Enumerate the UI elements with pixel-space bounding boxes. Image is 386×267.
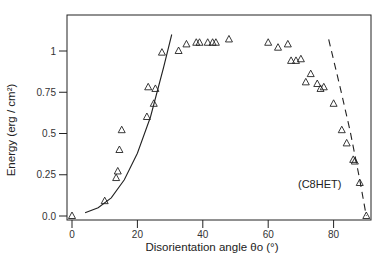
energy-chart: 0.00.250.50.751 020406080 (C8HET) Disori… xyxy=(0,0,386,267)
triangle-marker xyxy=(143,113,150,120)
triangle-marker xyxy=(118,126,125,133)
y-tick-label: 0.0 xyxy=(42,211,56,222)
triangle-marker xyxy=(225,35,232,42)
triangle-marker xyxy=(330,100,337,107)
x-axis-label: Disorientation angle θo (°) xyxy=(145,241,278,253)
y-axis-ticks: 0.00.250.50.751 xyxy=(37,46,67,222)
x-tick-label: 0 xyxy=(69,229,75,240)
y-tick-label: 1 xyxy=(50,46,56,57)
triangle-marker xyxy=(363,212,370,219)
triangle-marker xyxy=(175,47,182,54)
data-points xyxy=(69,35,370,218)
x-tick-label: 60 xyxy=(263,229,275,240)
x-axis-ticks: 020406080 xyxy=(69,220,339,240)
triangle-marker xyxy=(69,212,76,219)
triangle-marker xyxy=(114,167,121,174)
triangle-marker xyxy=(265,39,272,46)
triangle-marker xyxy=(288,57,295,64)
triangle-marker xyxy=(116,146,123,153)
x-tick-label: 80 xyxy=(328,229,340,240)
triangle-marker xyxy=(343,139,350,146)
triangle-marker xyxy=(113,174,120,181)
y-tick-label: 0.75 xyxy=(37,87,57,98)
triangle-marker xyxy=(338,126,345,133)
triangle-marker xyxy=(275,44,282,51)
x-tick-label: 40 xyxy=(197,229,209,240)
y-axis-label: Energy (erg / cm²) xyxy=(5,84,17,177)
triangle-marker xyxy=(145,83,152,90)
y-tick-label: 0.5 xyxy=(42,128,56,139)
annotation-label: (C8HET) xyxy=(298,178,341,190)
triangle-marker xyxy=(307,70,314,77)
triangle-marker xyxy=(204,39,211,46)
solid-fit-line xyxy=(85,35,172,213)
triangle-marker xyxy=(302,78,309,85)
triangle-marker xyxy=(284,40,291,47)
y-tick-label: 0.25 xyxy=(37,169,57,180)
triangle-marker xyxy=(158,49,165,56)
x-tick-label: 20 xyxy=(132,229,144,240)
triangle-marker xyxy=(183,40,190,47)
